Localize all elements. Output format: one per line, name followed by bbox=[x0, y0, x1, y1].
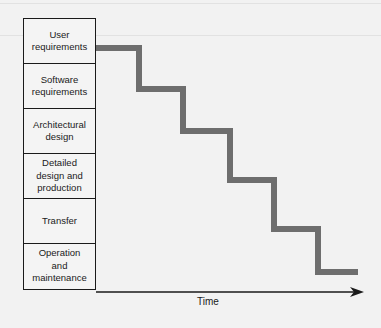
diagram-graphics bbox=[0, 0, 381, 328]
waterfall-step-line bbox=[96, 48, 358, 272]
time-axis-label: Time bbox=[197, 296, 219, 307]
